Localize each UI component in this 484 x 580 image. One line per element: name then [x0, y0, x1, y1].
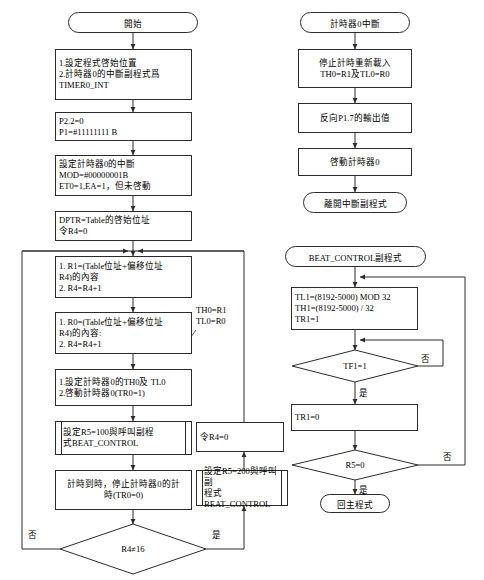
- main-load-r1-text: 1. R1=(Table位址+偏移位址 R4)的內容 2. R4=R4+1: [59, 261, 188, 294]
- main-reset-r4-box: 令R4=0: [196, 422, 284, 452]
- flowchart-canvas: 開始 1.設定程式啓始位置 2.計時器0的中斷副程式爲 TIMER0_INT P…: [0, 0, 484, 580]
- beat-decision-tf1: TF1=1: [292, 350, 418, 382]
- beat-decision-r5: R5=0: [292, 450, 418, 480]
- main-load-r0-text: 1. R0=(Table位址+偏移位址 R4)的內容: 2. R4=R4+1: [59, 317, 188, 350]
- isr-start-terminator: 計時器0中斷: [300, 12, 410, 33]
- beat-decision-r5-yes-label: 是: [359, 483, 368, 495]
- main-load-r0-box: 1. R0=(Table位址+偏移位址 R4)的內容: 2. R4=R4+1: [55, 312, 192, 354]
- main-decision-r4-yes-label: 是: [212, 528, 221, 540]
- main-dptr-init-box: DPTR=Table的啓始位址 令R4=0: [55, 211, 192, 241]
- isr-restart-text: 啓動計時器0: [302, 157, 408, 168]
- main-set-timer-text: 1.設定計時器0的TH0及 TL0 2.啓動計時器0(TR0=1): [59, 377, 188, 399]
- beat-end-terminator: 回主程式: [320, 494, 390, 513]
- main-init-program-text: 1.設定程式啓始位置 2.計時器0的中斷副程式爲 TIMER0_INT: [59, 58, 188, 91]
- beat-clear-tr1-box: TR1=0: [291, 404, 418, 431]
- main-reset-r4-text: 令R4=0: [200, 432, 280, 443]
- isr-reload-box: 停止計時重新載入 TH0=R1及TL0=R0: [298, 49, 412, 88]
- beat-clear-tr1-text: TR1=0: [295, 412, 414, 423]
- main-init-program-box: 1.設定程式啓始位置 2.計時器0的中斷副程式爲 TIMER0_INT: [55, 49, 192, 100]
- beat-load-timer1-box: TL1=(8192-5000) MOD 32 TH1=(8192-5000) /…: [291, 287, 418, 330]
- main-call-beat-100-text: 設定R5=100與呼叫副程 式BEAT_CONTROL: [63, 427, 184, 449]
- isr-toggle-box: 反向P1.7的輸出值: [298, 103, 412, 133]
- beat-decision-tf1-no-label: 否: [421, 352, 430, 364]
- main-timer-config-box: 設定計時器0的中斷 MOD=#00000001B ET0=1,EA=1，但未啓動: [55, 155, 192, 196]
- isr-end-terminator: 離開中斷副程式: [303, 192, 407, 213]
- isr-reload-text: 停止計時重新載入 TH0=R1及TL0=R0: [302, 58, 408, 80]
- main-timer-config-text: 設定計時器0的中斷 MOD=#00000001B ET0=1,EA=1，但未啓動: [59, 159, 188, 192]
- main-decision-r4-text: R4≠16: [60, 544, 206, 554]
- main-decision-r4: R4≠16: [60, 524, 206, 574]
- main-stop-timer-box: 計時到時，停止計時器0的計 時(TR0=0): [55, 470, 192, 510]
- beat-end-label: 回主程式: [321, 498, 389, 510]
- main-decision-r4-no-label: 否: [28, 528, 37, 540]
- main-set-timer-box: 1.設定計時器0的TH0及 TL0 2.啓動計時器0(TR0=1): [55, 369, 192, 406]
- main-start-label: 開始: [69, 17, 197, 29]
- beat-start-label: BEAT_CONTROL副程式: [286, 251, 425, 263]
- beat-load-timer1-text: TL1=(8192-5000) MOD 32 TH1=(8192-5000) /…: [295, 292, 414, 325]
- beat-start-terminator: BEAT_CONTROL副程式: [285, 246, 426, 267]
- main-port-init-text: P2.2=0 P1=#11111111 B: [59, 116, 188, 138]
- isr-end-label: 離開中斷副程式: [304, 197, 406, 209]
- beat-decision-r5-text: R5=0: [292, 460, 418, 470]
- main-dptr-init-text: DPTR=Table的啓始位址 令R4=0: [59, 215, 188, 237]
- main-call-beat-200-box: 設定R5=200與呼叫副 程式BEAT_CONTROL: [196, 470, 288, 506]
- beat-decision-r5-no-label: 否: [443, 450, 452, 462]
- isr-toggle-text: 反向P1.7的輸出值: [302, 113, 408, 124]
- isr-restart-box: 啓動計時器0: [298, 148, 412, 176]
- beat-decision-tf1-yes-label: 是: [359, 386, 368, 398]
- th0-tl0-annotation-text: TH0=R1 TL0=R0: [196, 305, 227, 326]
- isr-start-label: 計時器0中斷: [301, 17, 409, 29]
- main-stop-timer-text: 計時到時，停止計時器0的計 時(TR0=0): [59, 479, 188, 501]
- beat-decision-tf1-text: TF1=1: [292, 361, 418, 371]
- main-start-terminator: 開始: [68, 12, 198, 33]
- main-port-init-box: P2.2=0 P1=#11111111 B: [55, 112, 192, 141]
- main-call-beat-100-box: 設定R5=100與呼叫副程 式BEAT_CONTROL: [55, 421, 192, 455]
- th0-tl0-annotation: TH0=R1 TL0=R0: [196, 305, 227, 327]
- main-load-r1-box: 1. R1=(Table位址+偏移位址 R4)的內容 2. R4=R4+1: [55, 256, 192, 298]
- main-call-beat-200-text: 設定R5=200與呼叫副 程式BEAT_CONTROL: [204, 466, 280, 510]
